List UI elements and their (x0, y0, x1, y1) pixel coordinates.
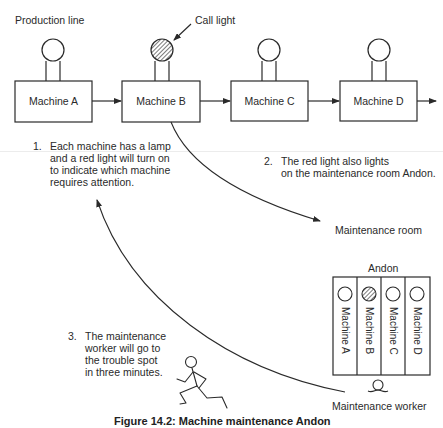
andon-column-machine-b: Machine B (363, 307, 375, 354)
production-line-label: Production line (15, 14, 84, 26)
lamp-off-icon (258, 39, 280, 61)
machine-a-label: Machine A (15, 95, 92, 107)
note-3-number: 3. (68, 330, 77, 342)
andon-column-machine-c: Machine C (387, 307, 399, 355)
note-2: 2. The red light also lights on the main… (264, 155, 436, 179)
note-1-line: and a red light will turn on (50, 152, 171, 164)
note-3-line: worker will go to (85, 342, 166, 354)
andon-lamp-off-icon (338, 287, 352, 301)
machine-c (231, 39, 308, 121)
machine-b (122, 39, 200, 122)
machine-d (340, 39, 417, 121)
machine-b-label: Machine B (122, 95, 200, 107)
running-worker-icon (177, 357, 227, 409)
note-3-line: in three minutes. (85, 366, 166, 378)
andon-lamp-off-icon (410, 287, 424, 301)
figure-caption: Figure 14.2: Machine maintenance Andon (114, 415, 331, 428)
lamp-off-icon (42, 39, 64, 61)
machine-c-label: Machine C (231, 95, 308, 107)
maintenance-worker-label: Maintenance worker (332, 400, 427, 412)
maintenance-worker-icon (368, 380, 388, 392)
lamp-on-icon (151, 39, 173, 61)
andon-lamp-off-icon (386, 287, 400, 301)
note-1-line: Each machine has a lamp (50, 140, 171, 152)
note-1: 1. Each machine has a lamp and a red lig… (33, 140, 171, 188)
call-light-label: Call light (195, 14, 235, 26)
andon-column-machine-d: Machine D (411, 307, 423, 355)
note-2-line: on the maintenance room Andon. (281, 167, 436, 179)
note-1-line: requires attention. (50, 176, 171, 188)
andon-label: Andon (368, 262, 398, 274)
note-1-number: 1. (33, 140, 42, 152)
note-3-line: the trouble spot (85, 354, 166, 366)
note-3: 3. The maintenance worker will go to the… (68, 330, 166, 378)
machine-a (15, 39, 92, 122)
note-3-line: The maintenance (85, 330, 166, 342)
andon-lamp-on-icon (362, 287, 376, 301)
note-2-number: 2. (264, 155, 273, 167)
call-light-pointer-arrow (174, 24, 191, 40)
note-1-line: to indicate which machine (50, 164, 171, 176)
lamp-off-icon (368, 39, 390, 61)
maintenance-room-label: Maintenance room (335, 224, 422, 236)
andon-column-machine-a: Machine A (339, 307, 351, 354)
machine-d-label: Machine D (340, 95, 417, 107)
note-2-line: The red light also lights (281, 155, 436, 167)
